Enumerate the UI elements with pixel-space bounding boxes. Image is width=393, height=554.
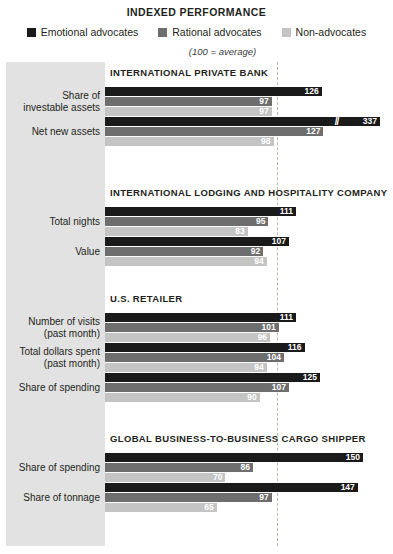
bar-value-label: 101 bbox=[105, 323, 279, 332]
bar-value-label: 65 bbox=[105, 503, 217, 512]
row-label: Net new assets bbox=[0, 126, 100, 138]
bar-value-label: 116 bbox=[105, 343, 305, 352]
row-label: Value bbox=[0, 246, 100, 258]
row-label-line2: investable assets bbox=[0, 102, 100, 114]
section-title: INTERNATIONAL LODGING AND HOSPITALITY CO… bbox=[110, 187, 387, 198]
bar-value-label: 98 bbox=[105, 137, 274, 146]
legend-label-rational-advocates: Rational advocates bbox=[172, 26, 261, 38]
bar-value-label: 126 bbox=[105, 87, 322, 96]
bar-value-label: 150 bbox=[105, 453, 363, 462]
row-label: Total nights bbox=[0, 216, 100, 228]
bar-value-label: 90 bbox=[105, 393, 260, 402]
bar-value-label: 97 bbox=[105, 97, 272, 106]
legend-label-emotional-advocates: Emotional advocates bbox=[41, 26, 138, 38]
row-label-line1: Share of spending bbox=[0, 382, 100, 394]
row-label-line1: Number of visits bbox=[0, 316, 100, 328]
bar-value-label: 92 bbox=[105, 247, 263, 256]
row-label-line1: Total dollars spent bbox=[0, 346, 100, 358]
legend-swatch-non-advocates bbox=[282, 28, 291, 37]
chart-plot-area: INTERNATIONAL PRIVATE BANKShare ofinvest… bbox=[0, 62, 393, 554]
row-label: Total dollars spent(past month) bbox=[0, 346, 100, 369]
legend-swatch-rational-advocates bbox=[158, 28, 167, 37]
bar-value-label: 86 bbox=[105, 463, 253, 472]
legend-item-emotional-advocates: Emotional advocates bbox=[27, 26, 138, 38]
section-title: GLOBAL BUSINESS-TO-BUSINESS CARGO SHIPPE… bbox=[110, 433, 366, 444]
legend-swatch-emotional-advocates bbox=[27, 28, 36, 37]
legend-item-rational-advocates: Rational advocates bbox=[158, 26, 261, 38]
legend-label-non-advocates: Non-advocates bbox=[296, 26, 367, 38]
row-label-line1: Share of tonnage bbox=[0, 492, 100, 504]
row-label-line1: Share of spending bbox=[0, 462, 100, 474]
bar-value-label: 104 bbox=[105, 353, 284, 362]
bar-value-label: 97 bbox=[105, 107, 272, 116]
bar-value-label: 70 bbox=[105, 473, 225, 482]
row-label: Share of spending bbox=[0, 382, 100, 394]
row-label: Share ofinvestable assets bbox=[0, 90, 100, 113]
bar-value-label: 107 bbox=[105, 383, 289, 392]
row-label-line2: (past month) bbox=[0, 328, 100, 340]
bar-value-label: 95 bbox=[105, 217, 268, 226]
chart-legend: Emotional advocates Rational advocates N… bbox=[0, 26, 393, 38]
axis-reference-note: (100 = average) bbox=[0, 46, 393, 57]
row-label-line1: Net new assets bbox=[0, 126, 100, 138]
bar-value-label: 94 bbox=[105, 257, 267, 266]
row-label-line1: Share of bbox=[0, 90, 100, 102]
row-label: Number of visits(past month) bbox=[0, 316, 100, 339]
bar-value-label: 83 bbox=[105, 227, 248, 236]
row-label-line2: (past month) bbox=[0, 358, 100, 370]
legend-item-non-advocates: Non-advocates bbox=[282, 26, 367, 38]
axis-break-marker: // bbox=[332, 116, 341, 127]
row-label-line1: Total nights bbox=[0, 216, 100, 228]
bar-value-label: 107 bbox=[105, 237, 289, 246]
bar-value-label: 96 bbox=[105, 333, 270, 342]
section-title: INTERNATIONAL PRIVATE BANK bbox=[110, 67, 268, 78]
bar-value-label: 125 bbox=[105, 373, 320, 382]
section-title: U.S. RETAILER bbox=[110, 293, 182, 304]
row-label-line1: Value bbox=[0, 246, 100, 258]
page-title: INDEXED PERFORMANCE bbox=[0, 0, 393, 18]
bar-value-label: 147 bbox=[105, 483, 358, 492]
bar-value-label: 111 bbox=[105, 207, 296, 216]
bar-value-label: 127 bbox=[105, 127, 323, 136]
row-label: Share of tonnage bbox=[0, 492, 100, 504]
bar-value-label: 94 bbox=[105, 363, 267, 372]
bar-value-label: 111 bbox=[105, 313, 296, 322]
row-label: Share of spending bbox=[0, 462, 100, 474]
bar-value-label: 97 bbox=[105, 493, 272, 502]
